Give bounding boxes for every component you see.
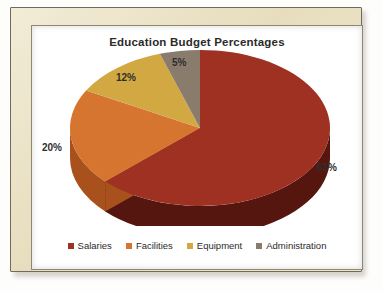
legend-swatch-icon — [187, 243, 193, 249]
legend-item-salaries[interactable]: Salaries — [68, 240, 112, 251]
pie-chart-svg — [32, 48, 362, 226]
legend-item-label: Administration — [266, 240, 326, 251]
legend-item-administration[interactable]: Administration — [256, 240, 326, 251]
pie-top-faces — [70, 50, 330, 206]
legend-item-facilities[interactable]: Facilities — [126, 240, 173, 251]
chart-title: Education Budget Percentages — [32, 36, 362, 48]
slice-label-facilities: 20% — [42, 142, 62, 153]
legend-swatch-icon — [126, 243, 132, 249]
legend-item-equipment[interactable]: Equipment — [187, 240, 242, 251]
chart-legend: SalariesFacilitiesEquipmentAdministratio… — [32, 240, 362, 251]
slice-label-salaries: 63% — [317, 162, 337, 173]
photo-frame-mat: Education Budget Percentages 63% 20% 12%… — [10, 7, 362, 272]
pie-chart-plot: 63% 20% 12% 5% — [32, 48, 362, 226]
legend-swatch-icon — [256, 243, 262, 249]
chart-card: Education Budget Percentages 63% 20% 12%… — [31, 25, 363, 270]
page-canvas: Education Budget Percentages 63% 20% 12%… — [0, 0, 383, 291]
legend-item-label: Salaries — [78, 240, 112, 251]
legend-swatch-icon — [68, 243, 74, 249]
legend-item-label: Equipment — [197, 240, 242, 251]
legend-item-label: Facilities — [136, 240, 173, 251]
slice-label-equipment: 12% — [116, 72, 136, 83]
slice-label-administration: 5% — [172, 57, 186, 68]
